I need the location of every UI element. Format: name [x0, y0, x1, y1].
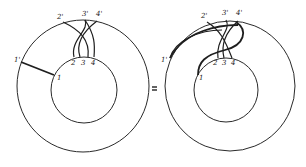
left-annulus: 1' 2' 3' 4' 1 2 3 4: [14, 10, 149, 152]
left-label-1prime: 1': [14, 56, 20, 64]
right-label-3: 3: [222, 59, 227, 67]
right-label-3prime: 3': [222, 9, 228, 17]
right-label-4prime: 4': [235, 9, 242, 17]
right-label-4: 4: [230, 59, 235, 67]
right-label-2: 2: [212, 59, 218, 67]
left-label-3prime: 3': [82, 10, 88, 18]
left-label-2: 2: [70, 59, 76, 67]
equals-sign: [152, 87, 157, 90]
right-label-1: 1: [199, 74, 203, 82]
right-strand-1-outer: [170, 25, 238, 58]
left-strand-3b: [85, 20, 94, 57]
right-label-2prime: 2': [200, 12, 207, 20]
braid-annulus-diagram: 1' 2' 3' 4' 1 2 3 4 1' 2' 3' 4' 1 2 3 4: [0, 0, 306, 167]
left-outer-circle: [17, 20, 149, 152]
right-inner-circle: [194, 58, 258, 122]
right-label-1prime: 1': [161, 56, 167, 64]
right-annulus: 1' 2' 3' 4' 1 2 3 4: [161, 9, 295, 151]
left-label-2prime: 2': [56, 13, 63, 21]
left-label-3: 3: [81, 59, 86, 67]
left-label-1: 1: [57, 74, 61, 82]
left-label-4: 4: [90, 59, 95, 67]
left-strand-1: [21, 62, 54, 75]
left-label-4prime: 4': [95, 10, 102, 18]
